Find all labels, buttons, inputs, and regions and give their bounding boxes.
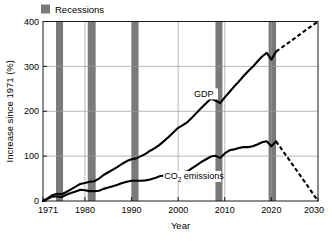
legend-swatch-recessions: [41, 5, 50, 14]
series-co2-emissions-projection: [276, 141, 318, 201]
legend: Recessions: [41, 4, 104, 15]
series-annotations: GDPCO2 emissions: [163, 88, 224, 182]
co2-series-label: CO2 emissions: [164, 171, 224, 182]
xtick-label-1990: 1990: [122, 205, 142, 215]
xtick-label-2030: 2030: [304, 205, 324, 215]
series-gdp: [43, 52, 276, 201]
ytick-label-400: 400: [24, 17, 39, 27]
xtick-label-1971: 1971: [38, 205, 58, 215]
series-gdp-projection: [276, 22, 318, 52]
ytick-label-300: 300: [24, 62, 39, 72]
xtick-label-2010: 2010: [215, 205, 235, 215]
axis-ticks: 0100200300400197119801990200020102020203…: [24, 17, 324, 215]
xtick-label-1980: 1980: [75, 205, 95, 215]
y-axis-title: Increase since 1971 (%): [4, 60, 15, 162]
figure-container: Recessions 01002003004001971198019902000…: [0, 0, 332, 242]
xtick-label-2000: 2000: [168, 205, 188, 215]
series-co2-emissions: [43, 141, 276, 201]
chart-canvas: Recessions 01002003004001971198019902000…: [0, 0, 332, 242]
legend-label-recessions: Recessions: [55, 4, 104, 15]
x-axis-title: Year: [171, 220, 190, 231]
gdp-series-label: GDP: [194, 89, 214, 99]
axis-titles: YearIncrease since 1971 (%): [4, 60, 191, 231]
ytick-label-100: 100: [24, 151, 39, 161]
xtick-label-2020: 2020: [261, 205, 281, 215]
ytick-label-200: 200: [24, 106, 39, 116]
